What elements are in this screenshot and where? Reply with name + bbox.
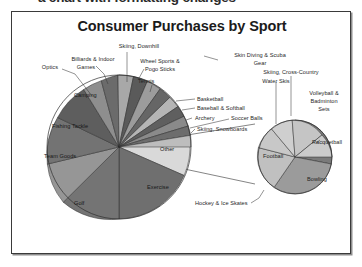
clipped-heading-text: a chart with formatting changes [38,0,236,5]
label-exercise: Exercise [147,184,169,191]
label-golf: Golf [74,200,84,207]
leader-hockey [251,190,264,203]
label-skiing-cross-country: Skiing, Cross-Country [250,69,332,76]
label-volleyball-line1: Volleyball & [300,90,348,97]
leader-skin-diving [204,56,218,60]
chart-frame: Consumer Purchases by Sport [11,11,351,254]
leader-snowboards [191,129,195,133]
label-skin-diving-line1: Skin Diving & Scuba [220,52,300,59]
label-soccer-balls: Soccer Balls [231,115,263,122]
label-tennis: Tennis [138,78,154,85]
label-volleyball-line3: Sets [304,106,344,113]
label-racquetball: Racquetball [312,139,342,146]
label-skin-diving-line2: Gear [231,60,289,67]
label-wheel-sports-line1: Wheel Sports & [129,58,191,65]
leader-baseball [182,108,195,110]
label-hockey-ice-skates: Hockey & Ice Skates [195,200,248,207]
leader-archery [186,118,192,120]
label-skiing-snowboards: Skiing, Snowboards [197,126,247,133]
label-football: Football [263,153,283,160]
label-wheel-sports-line2: Pogo Sticks [134,66,186,73]
label-optics: Optics [28,64,58,71]
plot-area: Optics Billiards & Indoor Games Skiing, … [12,12,351,254]
label-baseball-softball: Baseball & Softball [197,105,245,112]
label-camping: Camping [74,92,97,99]
label-bowling: Bowling [307,176,327,183]
label-volleyball-line2: Badminton [300,98,348,105]
label-other: Other [160,146,174,153]
leader-basketball [176,99,195,101]
label-water-skis: Water Skis [252,78,300,85]
label-billiards-line2: Games [68,64,104,71]
label-billiards-line1: Billiards & Indoor [60,56,126,63]
clipped-document-heading: a chart with formatting changes [0,0,362,10]
label-archery: Archery [195,115,215,122]
label-fishing-tackle: Fishing Tackle [52,123,88,130]
label-basketball: Basketball [197,96,223,103]
label-team-goods: Team Goods [44,153,76,160]
label-skiing-downhill: Skiing, Downhill [104,43,174,50]
pie-of-pie-graphic [12,12,351,254]
